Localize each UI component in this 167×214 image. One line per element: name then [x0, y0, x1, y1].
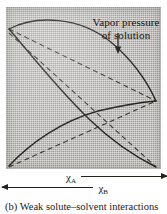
annotation-line-2: of solution	[82, 29, 167, 42]
x-axis-chi-b-arrow-icon	[2, 187, 93, 188]
figure-caption: (b) Weak solute–solvent interactions	[5, 201, 167, 213]
vapor-pressure-figure: Vapor pressure of solution χA χB (b) Wea…	[0, 0, 167, 214]
vapor-pressure-annotation: Vapor pressure of solution	[82, 16, 167, 41]
ideal-b-dashed-line	[9, 101, 156, 167]
x-axis-chi-b-label: χB	[98, 182, 108, 194]
x-axis-chi-a-arrow-icon	[81, 176, 167, 177]
axis-labels-group: χA χB	[0, 170, 167, 198]
ideal-a-dashed-line	[9, 33, 156, 167]
plot-area: Vapor pressure of solution	[6, 7, 161, 169]
x-axis-chi-b: χB	[2, 181, 108, 194]
annotation-line-1: Vapor pressure	[82, 16, 167, 29]
